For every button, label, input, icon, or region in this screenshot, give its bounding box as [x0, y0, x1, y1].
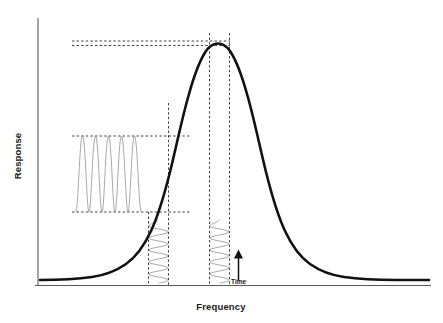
time-arrow-head: [234, 250, 243, 259]
figure-canvas: Time Frequency Response: [0, 0, 443, 323]
input-drive-waveform: [76, 136, 141, 212]
x-axis-label: Frequency: [196, 301, 246, 312]
y-axis-label: Response: [12, 133, 23, 180]
peak-amplitude-guides: [72, 41, 230, 46]
time-arrow-icon: [234, 250, 243, 282]
on-resonance-output-waveform: [210, 220, 229, 283]
resonance-response-figure: Time Frequency Response: [0, 0, 443, 323]
time-label: Time: [231, 278, 247, 285]
